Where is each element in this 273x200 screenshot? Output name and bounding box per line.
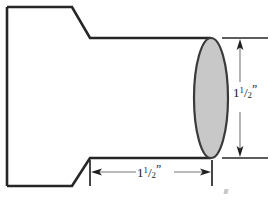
drawing-canvas: 11/2” 11/2” bbox=[0, 0, 273, 200]
horizontal-dimension-label: 11/2” bbox=[137, 164, 161, 179]
part-outline-group bbox=[7, 7, 211, 186]
circular-end-face bbox=[194, 38, 228, 158]
vertical-dimension-label: 11/2” bbox=[233, 84, 257, 99]
vertical-dim-unit: ” bbox=[252, 83, 257, 96]
end-face-group bbox=[194, 38, 228, 158]
part-top-profile bbox=[7, 7, 211, 38]
horizontal-dim-unit: ” bbox=[156, 163, 161, 176]
